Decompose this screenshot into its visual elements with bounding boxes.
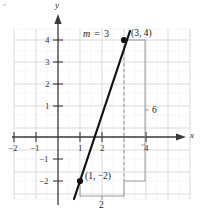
y-axis-label: y	[55, 1, 59, 10]
slope-equals-sign: =	[94, 28, 100, 39]
y-tick-label-3: 3	[45, 58, 50, 67]
slope-line-figure: y x −2 −1 1 2 4 4 3 2 1 −1 −2 m=3 (3, 4)…	[0, 0, 201, 214]
y-tick-label-neg2: −2	[39, 177, 49, 186]
point-label-lower: (1, −2)	[85, 172, 111, 182]
y-tick-label-neg1: −1	[39, 155, 49, 164]
x-tick-label-neg1: −1	[30, 144, 40, 153]
data-point-upper	[121, 37, 127, 43]
point-label-upper: (3, 4)	[131, 29, 152, 39]
x-axis-label: x	[190, 131, 194, 140]
rise-bracket	[124, 40, 149, 181]
x-axis-arrowhead	[176, 133, 186, 140]
slope-symbol: m	[83, 28, 90, 39]
y-tick-label-4: 4	[45, 36, 50, 45]
x-axis	[12, 133, 186, 140]
y-tick-label-1: 1	[45, 102, 50, 111]
y-axis	[54, 14, 61, 205]
run-label: 2	[99, 201, 104, 211]
slope-value: 3	[104, 28, 109, 39]
x-tick-label-1: 1	[78, 144, 83, 153]
slope-annotation: m=3	[83, 29, 109, 39]
data-point-lower	[77, 178, 83, 184]
x-tick-label-neg2: −2	[8, 144, 18, 153]
y-tick-label-2: 2	[45, 80, 50, 89]
x-tick-label-2: 2	[100, 144, 105, 153]
x-tick-label-4: 4	[144, 144, 149, 153]
y-axis-arrowhead	[54, 14, 61, 24]
rise-label: 6	[152, 106, 157, 116]
